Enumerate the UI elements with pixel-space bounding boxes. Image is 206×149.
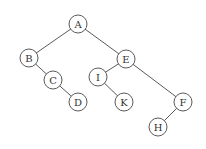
node-label: E <box>122 54 129 65</box>
node-label: D <box>74 97 82 108</box>
edge-e-f <box>126 59 183 102</box>
node-label: B <box>25 53 32 64</box>
tree-svg: ABCDEIKFH <box>0 0 206 149</box>
node-e: E <box>117 50 135 68</box>
node-c: C <box>44 71 62 89</box>
node-label: H <box>154 122 163 133</box>
node-label: F <box>180 97 187 108</box>
tree-diagram: ABCDEIKFH <box>0 0 206 149</box>
node-a: A <box>69 15 87 33</box>
node-label: C <box>49 75 57 86</box>
node-label: K <box>120 97 128 108</box>
node-h: H <box>149 118 167 136</box>
node-layer: ABCDEIKFH <box>20 15 192 136</box>
node-i: I <box>89 68 107 86</box>
node-label: I <box>96 72 100 83</box>
node-b: B <box>20 49 38 67</box>
node-label: A <box>73 19 82 30</box>
node-f: F <box>174 93 192 111</box>
node-d: D <box>69 93 87 111</box>
node-k: K <box>115 93 133 111</box>
